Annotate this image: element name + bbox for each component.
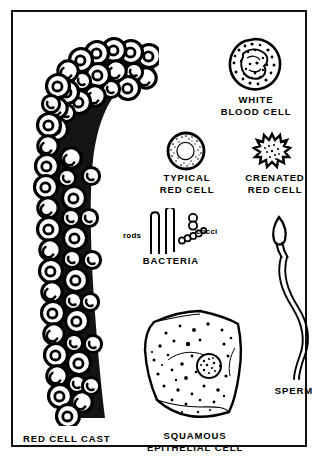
white-blood-cell-caption: WHITE BLOOD CELL <box>215 94 297 117</box>
squamous-epithelial-cell-caption: SQUAMOUS EPITHELIAL CELL <box>141 430 249 453</box>
typical-red-cell-caption: TYPICAL RED CELL <box>150 172 224 195</box>
squamous-epithelial-cell-illustration <box>138 308 250 426</box>
typical-red-cell-illustration <box>165 130 207 172</box>
crenated-red-cell-caption: CRENATED RED CELL <box>235 172 315 195</box>
illustration-plate: RED CELL CAST <box>0 0 321 459</box>
bacteria-cocci-label: cocci <box>196 227 217 236</box>
sperm-caption: SPERM <box>271 385 317 397</box>
sperm-illustration <box>266 215 316 381</box>
crenated-red-cell-illustration <box>251 130 293 172</box>
bacteria-rods-label: rods <box>123 231 141 240</box>
white-blood-cell-illustration <box>227 36 283 92</box>
plate-border-frame: RED CELL CAST <box>11 10 307 447</box>
red-cell-cast-caption: RED CELL CAST <box>23 433 153 445</box>
bacteria-caption: BACTERIA <box>133 255 209 267</box>
